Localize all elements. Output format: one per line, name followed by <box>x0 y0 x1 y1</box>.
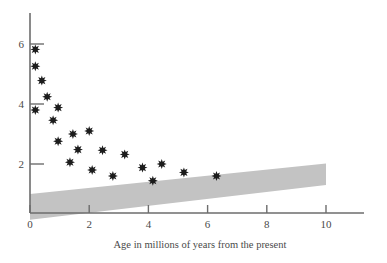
data-point <box>65 157 75 167</box>
data-point <box>53 103 63 113</box>
data-point <box>148 176 158 186</box>
data-point <box>84 126 94 136</box>
data-point <box>73 145 83 155</box>
x-tick-label: 6 <box>205 218 211 230</box>
data-point <box>37 76 47 86</box>
data-point <box>157 159 167 169</box>
x-tick-label: 0 <box>27 218 33 230</box>
x-tick-label: 8 <box>264 218 270 230</box>
data-point <box>98 145 108 155</box>
data-point <box>179 167 189 177</box>
data-point <box>68 129 78 139</box>
plot-area: 0246810246 Age in millions of years from… <box>0 0 387 263</box>
data-point <box>53 136 63 146</box>
data-point <box>211 171 221 181</box>
data-point <box>108 171 118 181</box>
data-point <box>120 149 130 159</box>
x-axis-title: Age in millions of years from the presen… <box>114 239 287 250</box>
data-point <box>30 44 40 54</box>
data-point <box>137 163 147 173</box>
data-markers <box>30 44 221 185</box>
data-point <box>87 165 97 175</box>
scatter-chart: 0246810246 Age in millions of years from… <box>0 0 387 263</box>
data-point <box>48 115 58 125</box>
x-tick-label: 2 <box>86 218 92 230</box>
shaded-band <box>30 163 326 219</box>
data-point <box>42 92 52 102</box>
x-tick-label: 10 <box>321 218 333 230</box>
data-point <box>30 105 40 115</box>
band-polygon <box>30 163 326 219</box>
y-tick-label: 2 <box>19 158 25 170</box>
x-tick-label: 4 <box>146 218 152 230</box>
y-tick-label: 6 <box>19 38 25 50</box>
data-point <box>30 61 40 71</box>
y-tick-label: 4 <box>19 98 25 110</box>
